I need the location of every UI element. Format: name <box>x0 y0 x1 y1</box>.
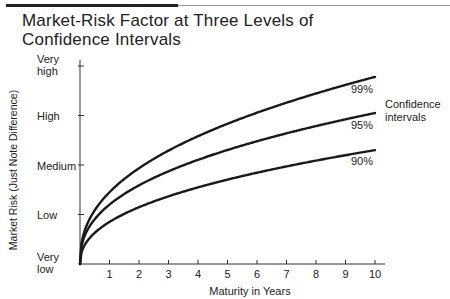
x-tick-label: 9 <box>336 268 356 280</box>
plot-area <box>0 0 450 299</box>
curve-label-90: 90% <box>351 155 373 167</box>
curve-label-95: 95% <box>351 119 373 131</box>
x-tick-label: 5 <box>218 268 238 280</box>
x-tick-label: 4 <box>188 268 208 280</box>
x-tick-label: 8 <box>306 268 326 280</box>
curves <box>80 77 375 264</box>
curve-90 <box>80 150 375 264</box>
confidence-intervals-note: Confidence intervals <box>385 98 441 124</box>
x-tick-label: 2 <box>129 268 149 280</box>
x-tick-label: 3 <box>159 268 179 280</box>
x-tick-label: 10 <box>365 268 385 280</box>
x-tick-label: 7 <box>277 268 297 280</box>
x-axis-label-container: Maturity in Years <box>0 285 450 297</box>
curve-99 <box>80 77 375 264</box>
curve-label-99: 99% <box>351 83 373 95</box>
confidence-note-line2: intervals <box>385 111 441 124</box>
x-axis-label: Maturity in Years <box>209 285 290 297</box>
curve-95 <box>80 113 375 264</box>
x-tick-label: 6 <box>247 268 267 280</box>
axes <box>78 60 385 264</box>
confidence-note-line1: Confidence <box>385 98 441 111</box>
x-tick-label: 1 <box>100 268 120 280</box>
